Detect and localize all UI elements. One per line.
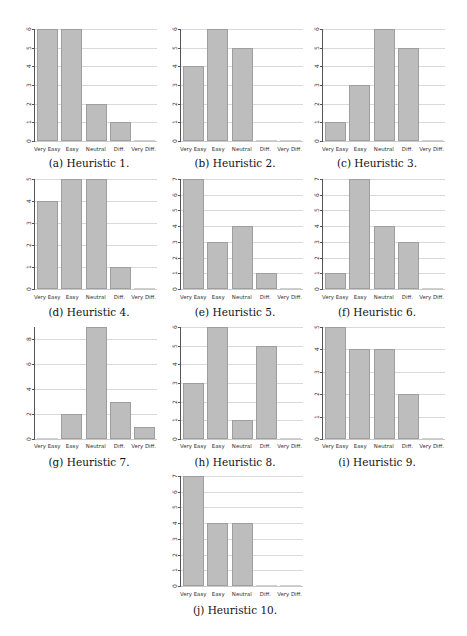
y-tick-label: 6 <box>24 360 34 368</box>
y-tick-label: 1 <box>312 413 322 421</box>
y-tick-label: 2 <box>170 551 180 559</box>
y-tick-label: 2 <box>312 390 322 398</box>
y-tick-label: 8 <box>24 335 34 343</box>
x-tick-label: Diff. <box>108 443 132 449</box>
x-tick-label: Very Diff. <box>419 443 444 449</box>
y-tick-label: 5 <box>312 323 322 331</box>
y-tick-label: 4 <box>24 385 34 393</box>
x-tick-label: Easy <box>206 591 230 597</box>
y-tick-label: 6 <box>170 488 180 496</box>
bar-diff <box>256 585 277 586</box>
y-tick-label: 7 <box>170 472 180 480</box>
bar-neutral <box>232 523 253 586</box>
y-tick-label: 3 <box>312 368 322 376</box>
y-tick-label: 5 <box>170 503 180 511</box>
bar-easy <box>349 349 370 439</box>
bar-neutral <box>374 349 395 439</box>
chart-panel-i: 012345Very EasyEasyNeutralDiff.Very Diff… <box>292 0 442 636</box>
x-tick-label: Very Easy <box>180 591 206 597</box>
chart-caption: (i) Heuristic 9. <box>302 456 452 468</box>
bar-diff <box>398 394 419 439</box>
gridline <box>181 586 303 587</box>
x-axis-labels: Very EasyEasyNeutralDiff.Very Diff. <box>180 591 302 597</box>
chart-panel-g: 02468Very EasyEasyNeutralDiff.Very Diff.… <box>4 0 154 636</box>
bar-very-diff <box>422 438 443 439</box>
y-tick-label: 3 <box>170 535 180 543</box>
x-tick-label: Easy <box>348 443 372 449</box>
y-tick-label: 0 <box>312 435 322 443</box>
x-axis-labels: Very EasyEasyNeutralDiff.Very Diff. <box>34 443 156 449</box>
y-tick-label: 0 <box>170 582 180 590</box>
x-tick-label: Very Easy <box>322 443 348 449</box>
plot-area: 012345 <box>322 327 445 439</box>
bar-very-easy <box>183 476 204 586</box>
bar-neutral <box>86 327 107 439</box>
bar-easy <box>61 414 82 439</box>
chart-caption: (j) Heuristic 10. <box>160 604 310 616</box>
bar-very-easy <box>37 438 58 439</box>
x-tick-label: Easy <box>60 443 84 449</box>
x-tick-label: Very Easy <box>34 443 60 449</box>
bar-very-diff <box>280 585 301 586</box>
gridline <box>323 439 445 440</box>
y-tick-label: 2 <box>24 410 34 418</box>
x-tick-label: Neutral <box>372 443 396 449</box>
gridline <box>35 439 157 440</box>
chart-caption: (g) Heuristic 7. <box>14 456 164 468</box>
plot-area: 02468 <box>34 327 157 439</box>
x-tick-label: Diff. <box>396 443 420 449</box>
bar-very-easy <box>325 327 346 439</box>
x-axis-labels: Very EasyEasyNeutralDiff.Very Diff. <box>322 443 444 449</box>
chart-panel-j: 01234567Very EasyEasyNeutralDiff.Very Di… <box>150 0 300 636</box>
y-tick-label: 1 <box>170 566 180 574</box>
plot-area: 01234567 <box>180 476 303 586</box>
x-tick-label: Very Diff. <box>277 591 302 597</box>
bar-diff <box>110 402 131 439</box>
y-tick-label: 4 <box>170 519 180 527</box>
x-tick-label: Neutral <box>84 443 108 449</box>
x-tick-label: Neutral <box>230 591 254 597</box>
y-tick-label: 0 <box>24 435 34 443</box>
y-tick-label: 4 <box>312 345 322 353</box>
bar-easy <box>207 523 228 586</box>
x-tick-label: Diff. <box>254 591 278 597</box>
